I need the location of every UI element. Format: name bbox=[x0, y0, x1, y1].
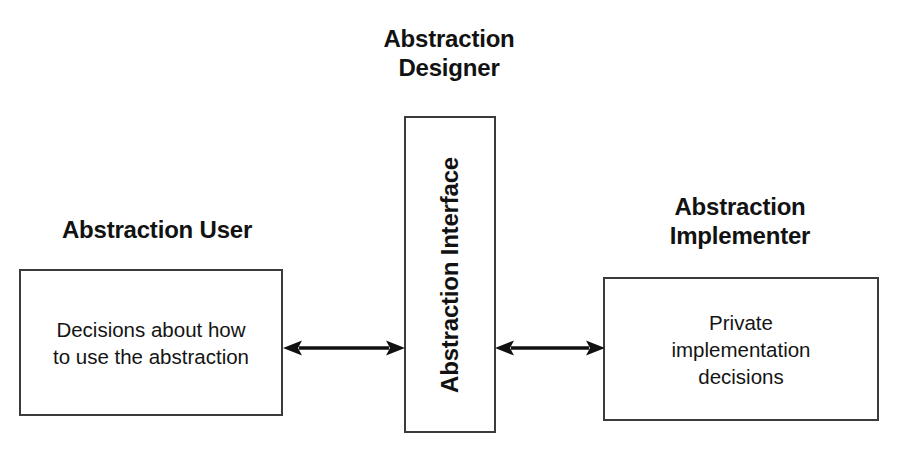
double-arrow-user-interface-icon bbox=[283, 334, 405, 362]
heading-abstraction-user: Abstraction User bbox=[32, 215, 282, 244]
box-abstraction-interface-label: Abstraction Interface bbox=[436, 157, 464, 393]
box-abstraction-implementer-text: Private implementation decisions bbox=[665, 309, 816, 390]
abstraction-diagram: Abstraction Designer Abstraction User Ab… bbox=[0, 0, 898, 452]
box-abstraction-implementer: Private implementation decisions bbox=[603, 277, 879, 421]
diagram-title-abstraction-designer: Abstraction Designer bbox=[329, 24, 569, 82]
box-abstraction-user: Decisions about how to use the abstracti… bbox=[19, 269, 283, 416]
double-arrow-interface-implementer-icon bbox=[495, 334, 605, 362]
box-abstraction-user-text: Decisions about how to use the abstracti… bbox=[47, 316, 255, 370]
box-abstraction-interface: Abstraction Interface bbox=[404, 116, 496, 433]
heading-abstraction-implementer: Abstraction Implementer bbox=[620, 192, 860, 250]
